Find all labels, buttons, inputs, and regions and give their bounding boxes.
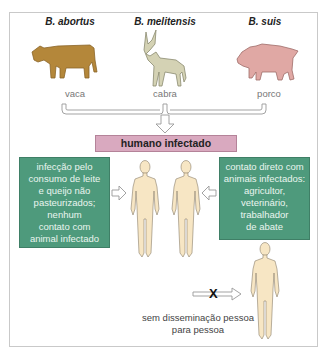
blocked-x-icon: X: [209, 286, 218, 301]
infected-human-label: humano infectado: [95, 135, 237, 152]
box-line: veterinário,: [220, 197, 309, 209]
box-line: nenhum: [20, 209, 109, 221]
direct-contact-infection-box: contato direto com animais infectados: a…: [219, 157, 310, 240]
box-line: infecção pelo: [20, 161, 109, 173]
down-arrow: [156, 115, 174, 133]
label-line: para pessoa: [118, 324, 278, 336]
box-line: trabalhador: [220, 209, 309, 221]
human-figure: [172, 161, 200, 258]
milk-cheese-infection-box: infecção pelo consumo de leite e queijo …: [19, 157, 110, 248]
box-line: e queijo não: [20, 185, 109, 197]
human-figure: [131, 161, 159, 258]
animal-label-goat: cabra: [125, 88, 205, 99]
box-line: consumo de leite: [20, 173, 109, 185]
goat-icon: [144, 30, 186, 86]
no-person-to-person-label: sem disseminação pessoa para pessoa: [118, 312, 278, 336]
animal-label-pig: porco: [229, 88, 309, 99]
box-line: animais infectados:: [220, 173, 309, 185]
box-line: contato direto com: [220, 161, 309, 173]
box-line: animal infectado: [20, 233, 109, 245]
arrow-right-icon: [112, 186, 126, 200]
cow-icon: [32, 45, 97, 78]
box-line: agricultor,: [220, 185, 309, 197]
pig-icon: [237, 44, 298, 80]
arrow-left-icon: [202, 186, 216, 200]
animal-label-cow: vaca: [35, 88, 115, 99]
merge-bracket: [62, 104, 266, 114]
box-line: contato com: [20, 221, 109, 233]
box-line: de abate: [220, 221, 309, 233]
label-line: sem disseminação pessoa: [118, 312, 278, 324]
box-line: pasteurizados;: [20, 197, 109, 209]
